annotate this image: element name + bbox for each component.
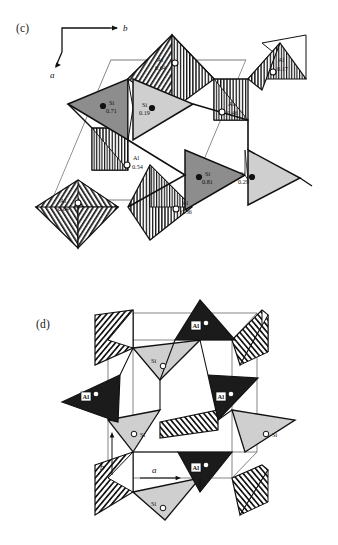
atom-marker-d-si-3 (263, 431, 269, 437)
atom-marker-al-054 (124, 162, 130, 168)
atom-label-al-054-value: 0.54 (132, 163, 143, 170)
atom-marker-si-019 (149, 105, 155, 111)
atom-marker-si-029 (249, 174, 255, 180)
atom-label-al-064-value: 0.64 (155, 64, 166, 71)
atom-label-al-046-element: Al (228, 100, 234, 107)
atom-label-d-al-1: Al (193, 322, 200, 329)
atom-label-d-al-2: Al (83, 393, 90, 400)
atom-marker-d-al-2 (94, 392, 99, 397)
panel-d-diagram: b a Al Al Al Al Si (0, 270, 338, 545)
atom-marker-al-046 (219, 109, 225, 115)
atom-label-al-064-element: Al (157, 56, 163, 63)
panel-c-axis-indicator: b a (50, 23, 128, 80)
atom-marker-d-al-4 (204, 463, 209, 468)
atom-label-al-017-element: Al (278, 56, 284, 63)
atom-marker-al-064 (172, 60, 178, 66)
panel-c-axis-a-label: a (50, 70, 55, 80)
atom-marker-d-al-1 (204, 321, 209, 326)
atom-label-al-036-value: 0.36 (181, 208, 192, 215)
atom-marker-d-al-3 (229, 392, 234, 397)
atom-label-al-036-element: Al (182, 199, 188, 206)
atom-marker-al-084 (75, 200, 81, 206)
atom-label-al-084-value: 0.84 (58, 205, 69, 212)
al-tetra-1 (175, 300, 235, 340)
atom-label-al-046-value: 0.46 (227, 109, 238, 116)
panel-d-axis-a-label: a (152, 465, 157, 475)
atom-label-d-si-4: Si (151, 500, 157, 507)
atom-marker-al-036 (173, 206, 179, 212)
atom-label-al-084-element: Al (60, 197, 66, 204)
atom-label-si-029-value: 0.29 (238, 178, 249, 185)
si-tetra-4 (133, 478, 200, 520)
atom-label-al-054-element: Al (133, 154, 139, 161)
atom-label-al-017-value: 0.17 (277, 65, 288, 72)
atom-label-si-081-element: Si (205, 170, 210, 177)
atom-label-d-al-4: Al (193, 464, 200, 471)
atom-label-si-071-value: 0.71 (106, 107, 117, 114)
atom-label-d-si-3: Si (272, 431, 278, 438)
atom-label-si-029-element: Si (240, 170, 245, 177)
atom-label-d-si-1: Si (151, 357, 157, 364)
atom-label-si-081-value: 0.81 (202, 178, 213, 185)
atom-label-d-si-2: Si (140, 431, 146, 438)
figure-container: (c) (0, 0, 338, 545)
atom-label-si-071-element: Si (109, 99, 114, 106)
atom-marker-d-si-1 (160, 363, 166, 369)
si-tetra-1 (133, 340, 200, 380)
atom-label-d-al-3: Al (218, 393, 225, 400)
atom-marker-al-017 (270, 69, 276, 75)
atom-label-si-019-value: 0.19 (139, 109, 150, 116)
panel-c-diagram: b a (0, 0, 338, 272)
atom-label-si-019-element: Si (142, 101, 147, 108)
panel-d-axis-b-label: b (100, 462, 105, 472)
panel-c-axis-b-label: b (123, 23, 128, 33)
atom-marker-d-si-4 (160, 505, 166, 511)
si-tetra-3 (232, 410, 295, 452)
atom-marker-d-si-2 (131, 431, 137, 437)
